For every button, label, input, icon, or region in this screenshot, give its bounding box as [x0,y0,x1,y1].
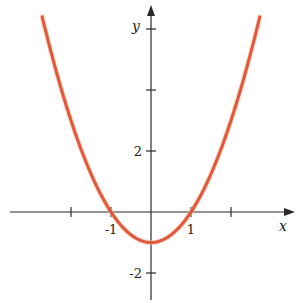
y-axis-arrow-icon [147,5,155,16]
y-tick-label: 2 [134,144,142,159]
x-axis-arrow-icon [284,208,295,216]
x-tick-label: 1 [187,222,195,237]
x-axis: -11 x [10,207,295,237]
y-axis: 2-2 y [129,5,156,300]
y-tick-label: -2 [129,266,142,281]
y-axis-label: y [131,18,141,34]
x-axis-label: x [279,218,287,234]
parabola-chart: -11 x 2-2 y [0,0,297,303]
x-tick-label: -1 [105,222,118,237]
